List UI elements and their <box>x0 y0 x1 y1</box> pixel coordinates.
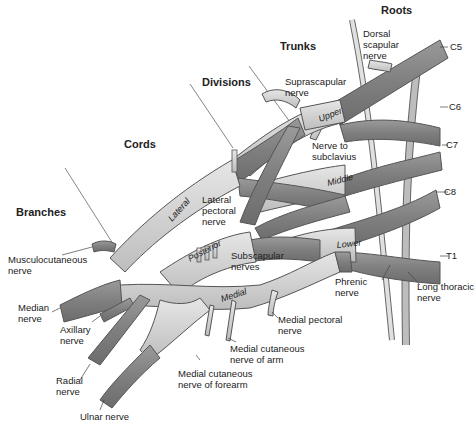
label-medial-cutaneous-nerve-forearm: Medial cutaneous nerve of forearm <box>178 368 252 390</box>
label-median-nerve: Median nerve <box>18 302 49 324</box>
label-nerve-to-subclavius: Nerve to subclavius <box>312 140 356 162</box>
header-branches: Branches <box>16 206 66 218</box>
root-label-c6: C6 <box>449 101 461 112</box>
label-suprascapular-nerve: Suprascapular nerve <box>285 76 346 98</box>
label-radial-nerve: Radial nerve <box>56 375 83 397</box>
root-label-c5: C5 <box>450 41 462 52</box>
header-divisions: Divisions <box>202 76 251 88</box>
label-long-thoracic-nerve: Long thoracic nerve <box>417 281 474 303</box>
root-label-t1: T1 <box>446 250 457 261</box>
label-dorsal-scapular-nerve: Dorsal scapular nerve <box>363 28 399 61</box>
header-cords: Cords <box>124 138 156 150</box>
header-trunks: Trunks <box>280 40 316 52</box>
label-ulnar-nerve: Ulnar nerve <box>80 411 129 422</box>
label-musculocutaneous-nerve: Musculocutaneous nerve <box>8 254 87 276</box>
label-medial-pectoral-nerve: Medial pectoral nerve <box>278 314 342 336</box>
label-subscapular-nerves: Subscapular nerves <box>231 250 284 272</box>
root-label-c8: C8 <box>444 186 456 197</box>
label-axillary-nerve: Axillary nerve <box>60 324 91 346</box>
root-label-c7: C7 <box>446 139 458 150</box>
label-lateral-pectoral-nerve: Lateral pectoral nerve <box>202 194 236 227</box>
label-medial-cutaneous-nerve-arm: Medial cutaneous nerve of arm <box>230 343 304 365</box>
label-phrenic-nerve: Phrenic nerve <box>335 276 367 298</box>
trunk-label-lower: Lower <box>336 237 362 250</box>
header-roots: Roots <box>381 4 412 16</box>
